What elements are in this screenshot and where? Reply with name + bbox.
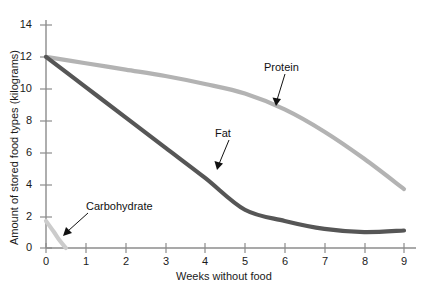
fat-arrowhead-icon <box>215 161 224 170</box>
x-tick-label-6: 6 <box>275 256 295 267</box>
x-tick-label-8: 8 <box>355 256 375 267</box>
x-tick-label-1: 1 <box>76 256 96 267</box>
fat-leader-line <box>219 140 229 164</box>
x-axis-title: Weeks without food <box>176 271 272 282</box>
carbohydrate-leader-line <box>68 213 88 231</box>
series-label-protein: Protein <box>264 62 299 73</box>
x-tick-label-0: 0 <box>36 256 56 267</box>
x-tick-label-7: 7 <box>315 256 335 267</box>
series-line-protein <box>46 57 404 189</box>
y-axis-title: Amount of stored food types (kilograms) <box>9 50 20 245</box>
x-tick-label-2: 2 <box>116 256 136 267</box>
x-tick-label-4: 4 <box>195 256 215 267</box>
chart-container: 14 12 10 8 6 4 2 0 0 1 2 3 4 5 6 7 8 9 A… <box>0 0 424 292</box>
series-label-carbohydrate: Carbohydrate <box>86 201 153 212</box>
protein-leader-line <box>277 74 285 100</box>
series-label-fat: Fat <box>215 128 231 139</box>
x-tick-label-5: 5 <box>235 256 255 267</box>
chart-plot-area <box>0 0 424 292</box>
x-tick-label-3: 3 <box>156 256 176 267</box>
x-tick-label-9: 9 <box>394 256 414 267</box>
series-line-carbohydrate <box>46 221 66 248</box>
y-tick-label-14: 14 <box>10 19 32 30</box>
